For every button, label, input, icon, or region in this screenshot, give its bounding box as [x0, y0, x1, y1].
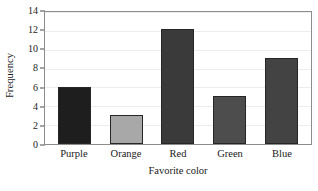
- bar-slot: [152, 12, 204, 144]
- bar: [110, 115, 143, 144]
- y-axis-title-label: Frequency: [5, 52, 16, 97]
- y-axis-tick-label: 8: [33, 63, 38, 73]
- x-axis-tick-label: Purple: [48, 148, 100, 159]
- plot-area: [44, 11, 312, 145]
- bar: [161, 29, 194, 144]
- bar-slot: [49, 12, 101, 144]
- bar: [58, 87, 91, 144]
- gridline: [45, 144, 311, 145]
- x-axis-tick-label: Red: [152, 148, 204, 159]
- y-axis-title: Frequency: [2, 0, 18, 150]
- y-axis-tick-label: 0: [33, 140, 38, 150]
- bar: [265, 58, 298, 144]
- x-axis-tick-label: Green: [204, 148, 256, 159]
- y-axis-tick-label: 10: [28, 44, 38, 54]
- y-axis-tick-label-group: 02468101214: [18, 11, 38, 145]
- bar-slot: [204, 12, 256, 144]
- y-axis-tick-label: 2: [33, 121, 38, 131]
- x-axis-tick-label: Blue: [256, 148, 308, 159]
- x-axis-tick-label-group: PurpleOrangeRedGreenBlue: [44, 148, 312, 159]
- y-axis-tick-label: 12: [28, 25, 38, 35]
- bar-slot: [101, 12, 153, 144]
- bar: [213, 96, 246, 144]
- y-axis-tick-label: 14: [28, 6, 38, 16]
- x-axis-tick-label: Orange: [100, 148, 152, 159]
- bar-chart-figure: Frequency 02468101214 PurpleOrangeRedGre…: [0, 0, 318, 191]
- y-axis-tick-label: 4: [33, 102, 38, 112]
- y-axis-tick-label: 6: [33, 83, 38, 93]
- bar-slot: [255, 12, 307, 144]
- x-axis-title: Favorite color: [44, 165, 312, 176]
- bar-group: [45, 12, 311, 144]
